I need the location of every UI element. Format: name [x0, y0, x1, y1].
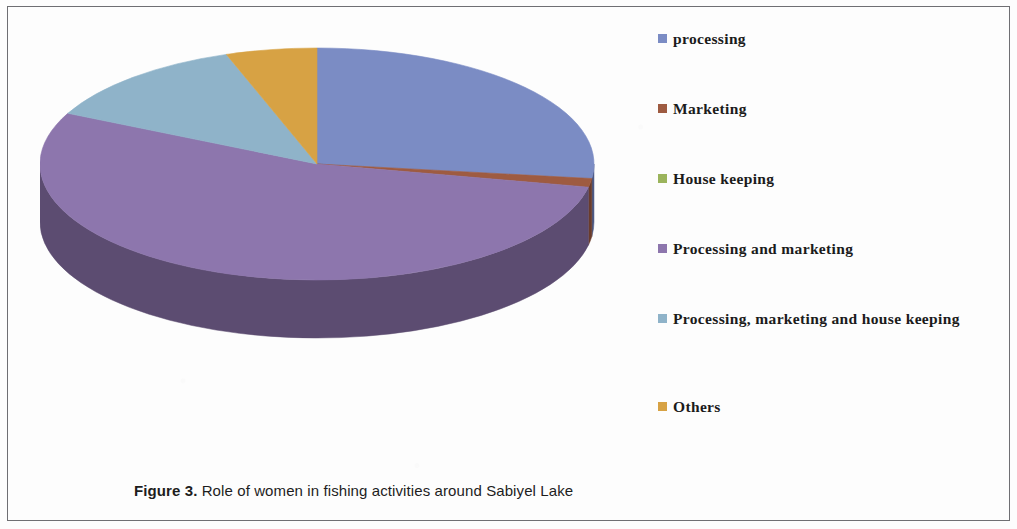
legend-label-marketing: Marketing: [673, 98, 747, 119]
figure-page: processing Marketing House keeping Proce…: [0, 0, 1017, 529]
figure-caption-text: Role of women in fishing activities arou…: [197, 482, 573, 499]
legend-label-others: Others: [673, 396, 721, 417]
legend-item-marketing[interactable]: Marketing: [658, 98, 1003, 168]
legend-swatch-icon-house-keeping: [658, 174, 667, 183]
pie-top-faces: [40, 48, 594, 280]
legend-swatch-icon-processing-marketing-house-keeping: [658, 314, 667, 323]
legend-item-house-keeping[interactable]: House keeping: [658, 168, 1003, 238]
legend-swatch-icon-processing: [658, 34, 667, 43]
legend-item-others[interactable]: Others: [658, 396, 1003, 466]
pie-chart-svg: [40, 24, 650, 424]
legend-label-processing: processing: [673, 28, 746, 49]
figure-caption: Figure 3. Role of women in fishing activ…: [134, 482, 573, 499]
legend-label-processing-marketing-house-keeping: Processing, marketing and house keeping: [673, 308, 960, 329]
legend-label-processing-and-marketing: Processing and marketing: [673, 238, 853, 259]
figure-caption-number: Figure 3.: [134, 482, 197, 499]
legend-item-processing-marketing-house-keeping[interactable]: Processing, marketing and house keeping: [658, 308, 1003, 396]
legend-item-processing-and-marketing[interactable]: Processing and marketing: [658, 238, 1003, 308]
pie-chart: [40, 24, 650, 424]
pie-slice-side-1: [588, 179, 591, 246]
chart-legend: processing Marketing House keeping Proce…: [658, 28, 1003, 466]
pie-slice-0[interactable]: [317, 48, 594, 179]
legend-label-house-keeping: House keeping: [673, 168, 774, 189]
legend-swatch-icon-others: [658, 402, 667, 411]
legend-item-processing[interactable]: processing: [658, 28, 1003, 98]
pie-chart-canvas: [40, 24, 650, 424]
legend-swatch-icon-marketing: [658, 104, 667, 113]
legend-swatch-icon-processing-and-marketing: [658, 244, 667, 253]
